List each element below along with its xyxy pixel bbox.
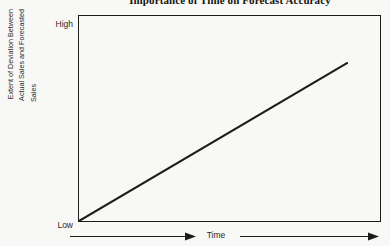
y-axis-title-line-2: Actual Sales and Forecasted [16, 9, 28, 101]
arrow-right-icon-middle [185, 233, 196, 241]
y-axis-title-line-1: Extent of Deviation Between [5, 9, 17, 99]
page-title: Importance of Time on Forecast Accuracy [78, 0, 382, 6]
data-series-line [79, 63, 347, 221]
y-axis-title-line-3: Sales [28, 84, 40, 102]
x-axis-title: Time [200, 230, 232, 241]
x-axis: Time [0, 226, 390, 246]
x-axis-arrow-line [0, 226, 390, 246]
arrow-right-icon-end [368, 233, 379, 241]
plot-canvas [79, 16, 380, 221]
plot-area [78, 15, 381, 222]
chart-figure: Importance of Time on Forecast Accuracy … [0, 0, 390, 246]
y-axis-tick-high-label: High [56, 19, 73, 29]
y-axis-title: Extent of Deviation Between Actual Sales… [2, 9, 42, 177]
